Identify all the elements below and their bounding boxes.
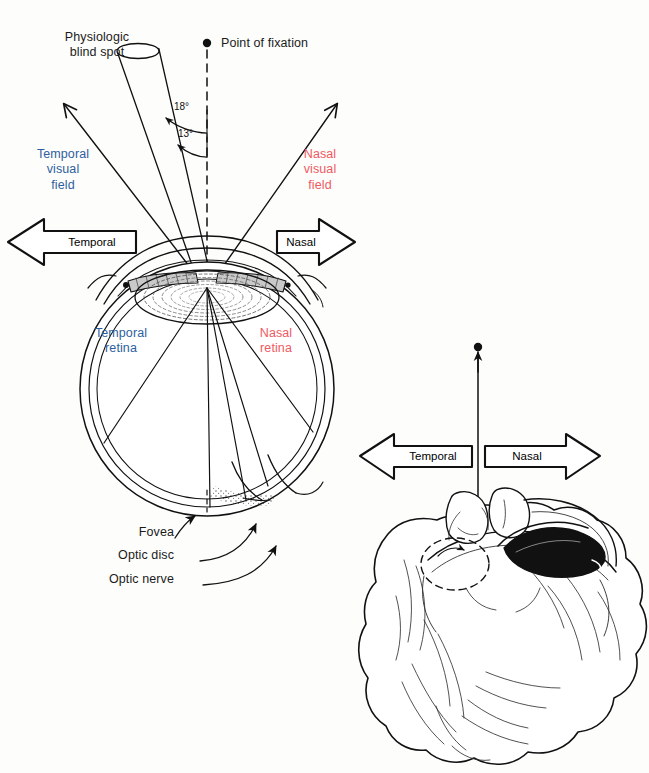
temporal-retina-label: Temporal retina xyxy=(78,326,164,357)
temporal-visual-field-label: Temporal visual field xyxy=(18,147,108,193)
head-fixation-dot-icon xyxy=(474,343,482,351)
nasal-field-ray xyxy=(208,104,337,288)
eye-temporal-banner-label: Temporal xyxy=(48,236,136,248)
head-top-view-icon xyxy=(359,488,647,764)
optic-disc-leader xyxy=(200,524,256,561)
eye-nasal-banner-label: Nasal xyxy=(279,236,323,248)
optic-nerve-leader xyxy=(203,546,276,585)
point-of-fixation-label: Point of fixation xyxy=(221,36,308,51)
nasal-visual-field-label: Nasal visual field xyxy=(283,147,357,193)
fixation-dot-icon xyxy=(203,39,211,47)
figure-canvas xyxy=(0,0,649,773)
head-temporal-banner-label: Temporal xyxy=(396,450,470,462)
nasal-retina-label: Nasal retina xyxy=(243,326,309,357)
visual-field-figure: Physiologic blind spot Point of fixation… xyxy=(0,0,649,773)
angle-13-label: 13° xyxy=(178,128,193,139)
physiologic-blind-spot-label: Physiologic blind spot xyxy=(42,30,152,61)
optic-disc-label: Optic disc xyxy=(66,548,174,563)
fovea-label: Fovea xyxy=(86,525,174,540)
optic-nerve-label: Optic nerve xyxy=(62,572,174,587)
head-nasal-banner-label: Nasal xyxy=(489,450,565,462)
angle-18-label: 18° xyxy=(174,101,189,112)
